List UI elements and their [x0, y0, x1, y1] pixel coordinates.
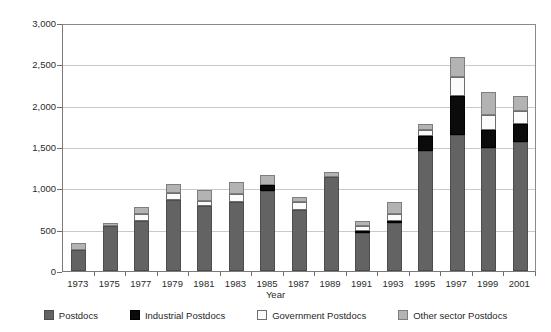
- bar-segment-postdocs: [229, 202, 244, 271]
- bar-segment-postdocs: [103, 226, 118, 271]
- y-tick-label: 1,500: [16, 143, 56, 153]
- legend-swatch-icon: [44, 310, 54, 320]
- y-tick-label: 0: [16, 267, 56, 277]
- bar-segment-government-postdocs: [166, 193, 181, 199]
- bar-segment-government-postdocs: [292, 202, 307, 210]
- bar-segment-other-sector-postdocs: [292, 197, 307, 202]
- bar-segment-industrial-postdocs: [513, 124, 528, 142]
- x-tick-mark: [220, 272, 221, 276]
- bar-2001[interactable]: [513, 96, 528, 271]
- y-tick-label: 500: [16, 226, 56, 236]
- legend-label: Other sector Postdocs: [413, 310, 507, 321]
- bar-1997[interactable]: [450, 56, 465, 271]
- bar-segment-postdocs: [355, 233, 370, 271]
- y-tick-label: 2,500: [16, 60, 56, 70]
- bar-segment-postdocs: [260, 191, 275, 271]
- bar-segment-other-sector-postdocs: [481, 92, 496, 115]
- x-tick-mark: [377, 272, 378, 276]
- bar-segment-government-postdocs: [229, 194, 244, 202]
- bar-segment-other-sector-postdocs: [450, 57, 465, 78]
- bar-1993[interactable]: [387, 202, 402, 271]
- bar-segment-other-sector-postdocs: [103, 223, 118, 226]
- bar-segment-postdocs: [513, 142, 528, 271]
- bar-segment-government-postdocs: [418, 130, 433, 136]
- bar-segment-other-sector-postdocs: [134, 207, 149, 214]
- bar-segment-postdocs: [481, 148, 496, 271]
- x-tick-mark: [94, 272, 95, 276]
- bar-segment-other-sector-postdocs: [387, 202, 402, 214]
- bar-1995[interactable]: [418, 124, 433, 271]
- bar-segment-government-postdocs: [197, 201, 212, 206]
- bar-segment-postdocs: [71, 250, 86, 271]
- legend-item-postdocs[interactable]: Postdocs: [44, 310, 98, 321]
- legend-item-government-postdocs[interactable]: Government Postdocs: [257, 310, 366, 321]
- chart-legend: PostdocsIndustrial PostdocsGovernment Po…: [0, 305, 551, 325]
- bar-segment-postdocs: [134, 221, 149, 271]
- x-tick-mark: [314, 272, 315, 276]
- bar-segment-government-postdocs: [450, 77, 465, 96]
- bar-1989[interactable]: [324, 172, 339, 271]
- bar-segment-postdocs: [418, 151, 433, 271]
- bar-segment-government-postdocs: [355, 226, 370, 231]
- bar-segment-government-postdocs: [513, 111, 528, 124]
- bar-segment-industrial-postdocs: [260, 185, 275, 190]
- legend-item-industrial-postdocs[interactable]: Industrial Postdocs: [130, 310, 225, 321]
- legend-item-other-sector-postdocs[interactable]: Other sector Postdocs: [398, 310, 507, 321]
- bar-1977[interactable]: [134, 207, 149, 271]
- bar-1975[interactable]: [103, 223, 118, 271]
- legend-label: Industrial Postdocs: [145, 310, 225, 321]
- bar-segment-other-sector-postdocs: [260, 175, 275, 186]
- x-tick-mark: [346, 272, 347, 276]
- legend-label: Postdocs: [59, 310, 98, 321]
- bar-segment-other-sector-postdocs: [355, 221, 370, 225]
- bar-segment-postdocs: [166, 200, 181, 272]
- bar-segment-postdocs: [324, 177, 339, 271]
- bar-segment-other-sector-postdocs: [513, 96, 528, 111]
- bar-1987[interactable]: [292, 197, 307, 271]
- y-tick-label: 2,000: [16, 102, 56, 112]
- y-tick-label: 1,000: [16, 184, 56, 194]
- legend-swatch-icon: [257, 310, 267, 320]
- bar-segment-other-sector-postdocs: [71, 243, 86, 250]
- x-tick-mark: [125, 272, 126, 276]
- bar-segment-other-sector-postdocs: [324, 172, 339, 177]
- bar-1999[interactable]: [481, 92, 496, 271]
- bar-segment-industrial-postdocs: [450, 96, 465, 135]
- x-tick-mark: [409, 272, 410, 276]
- bar-segment-other-sector-postdocs: [166, 184, 181, 194]
- bar-1973[interactable]: [71, 243, 86, 271]
- bar-segment-postdocs: [292, 210, 307, 271]
- x-tick-mark: [440, 272, 441, 276]
- bar-1981[interactable]: [197, 190, 212, 271]
- x-tick-mark: [188, 272, 189, 276]
- x-tick-mark: [535, 272, 536, 276]
- bar-1985[interactable]: [260, 175, 275, 271]
- bar-segment-postdocs: [197, 206, 212, 271]
- x-tick-label: 2001: [496, 278, 542, 289]
- bar-segment-other-sector-postdocs: [229, 182, 244, 194]
- y-tick-mark: [57, 272, 62, 273]
- x-tick-mark: [472, 272, 473, 276]
- bar-segment-industrial-postdocs: [481, 130, 496, 148]
- bar-1991[interactable]: [355, 221, 370, 271]
- bar-segment-government-postdocs: [134, 214, 149, 220]
- bar-segment-other-sector-postdocs: [418, 124, 433, 129]
- bar-segment-industrial-postdocs: [418, 136, 433, 151]
- bar-1979[interactable]: [166, 184, 181, 271]
- x-tick-mark: [157, 272, 158, 276]
- bar-segment-industrial-postdocs: [387, 221, 402, 223]
- bar-segment-government-postdocs: [387, 214, 402, 221]
- bar-segment-industrial-postdocs: [355, 231, 370, 233]
- plot-area: [62, 24, 535, 272]
- x-tick-mark: [503, 272, 504, 276]
- legend-swatch-icon: [398, 310, 408, 320]
- stacked-bar-chart: Number 05001,0001,5002,0002,5003,000 197…: [0, 0, 551, 332]
- legend-label: Government Postdocs: [272, 310, 366, 321]
- y-tick-label: 3,000: [16, 19, 56, 29]
- x-tick-mark: [283, 272, 284, 276]
- x-tick-mark: [251, 272, 252, 276]
- bar-segment-postdocs: [450, 135, 465, 271]
- bar-segment-government-postdocs: [481, 115, 496, 130]
- bar-1983[interactable]: [229, 182, 244, 271]
- x-axis-title: Year: [0, 289, 551, 300]
